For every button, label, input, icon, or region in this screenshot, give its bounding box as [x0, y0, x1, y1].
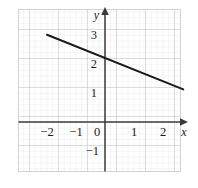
y-axis-label: y [93, 8, 100, 22]
y-tick-label-1: 1 [91, 86, 97, 100]
grid-area [19, 10, 181, 172]
x-tick-label-2: 2 [160, 125, 166, 139]
x-axis-label: x [180, 125, 187, 139]
coordinate-plane-plot: −2 −1 0 1 2 3 2 1 −1 y x [0, 0, 198, 188]
graph-figure: −2 −1 0 1 2 3 2 1 −1 y x [0, 0, 198, 188]
y-tick-label-3: 3 [91, 28, 97, 42]
x-tick-label-zero: 0 [94, 125, 100, 139]
y-tick-label-minus1: −1 [86, 144, 99, 158]
x-tick-label-1: 1 [131, 125, 137, 139]
x-tick-label-minus1: −1 [69, 125, 82, 139]
x-tick-label-minus2: −2 [40, 125, 53, 139]
grid-background [19, 10, 181, 172]
y-tick-label-2: 2 [91, 57, 97, 71]
